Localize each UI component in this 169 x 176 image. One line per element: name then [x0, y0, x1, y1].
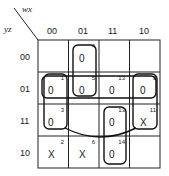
- kmap-cell: X11: [130, 104, 160, 136]
- col-label: 10: [139, 26, 149, 36]
- kmap-cell: [130, 40, 160, 72]
- kmap-cell: 03: [38, 104, 68, 136]
- kmap-cell: [130, 136, 160, 168]
- col-var-label: wx: [22, 4, 32, 14]
- kmap-cell: [38, 40, 68, 72]
- kmap-cell: 09: [130, 72, 160, 104]
- row-label: 00: [20, 52, 30, 62]
- row-label: 11: [20, 116, 29, 126]
- kmap-cell: [99, 40, 129, 72]
- kmap-cell: X6: [69, 136, 99, 168]
- col-label: 11: [108, 26, 117, 36]
- kmap-cell: 013: [99, 72, 129, 104]
- kmap-cell: 05: [69, 72, 99, 104]
- kmap-cell: X2: [38, 136, 68, 168]
- kmap-cell: 014: [99, 136, 129, 168]
- row-label: 10: [20, 148, 30, 158]
- row-var-label: yz: [4, 24, 12, 34]
- col-label: 01: [78, 26, 88, 36]
- kmap-cell: [69, 104, 99, 136]
- row-label: 01: [20, 84, 30, 94]
- kmap-cell: 01: [38, 72, 68, 104]
- col-label: 00: [47, 26, 57, 36]
- kmap-cell: 013: [99, 104, 129, 136]
- kmap-cell: 04: [69, 40, 99, 72]
